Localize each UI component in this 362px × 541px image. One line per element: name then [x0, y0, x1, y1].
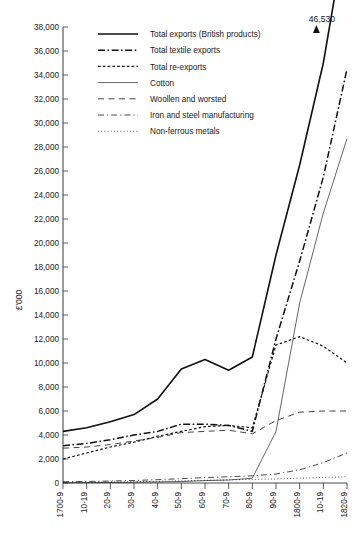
y-axis-title: £'000 — [14, 289, 24, 310]
legend-label: Total exports (British products) — [150, 30, 261, 39]
legend-item: Total exports (British products) — [98, 30, 261, 39]
x-tick-label: 10-19 — [316, 492, 325, 513]
y-tick-label: 28,000 — [34, 143, 59, 152]
y-tick-label: 20,000 — [34, 239, 59, 248]
x-tick-label: 40-9 — [151, 492, 160, 509]
y-tick-label: 16,000 — [34, 287, 59, 296]
legend-item: Woollen and worsted — [98, 95, 227, 104]
legend-label: Total re-exports — [150, 63, 206, 72]
x-tick-label: 90-9 — [269, 492, 278, 509]
legend-label: Woollen and worsted — [150, 95, 227, 104]
x-tick-label: 10-19 — [80, 492, 89, 513]
legend-label: Non-ferrous metals — [150, 127, 220, 136]
line-chart: 02,0004,0006,0008,00010,00012,00014,0001… — [0, 0, 362, 541]
x-tick-label: 1820-9 — [340, 492, 349, 518]
x-tick-label: 60-9 — [198, 492, 207, 509]
legend-item: Iron and steel manufacturing — [98, 111, 254, 120]
y-tick-label: 22,000 — [34, 215, 59, 224]
y-tick-label: 30,000 — [34, 119, 59, 128]
y-tick-label: 18,000 — [34, 263, 59, 272]
x-tick-label: 1700-9 — [56, 492, 65, 518]
x-tick-label: 1800-9 — [293, 492, 302, 518]
figure-container: 02,0004,0006,0008,00010,00012,00014,0001… — [0, 0, 362, 541]
x-tick-label: 20-9 — [103, 492, 112, 509]
x-tick-label: 30-9 — [127, 492, 136, 509]
legend-label: Cotton — [150, 79, 175, 88]
series-line — [63, 453, 347, 482]
y-tick-label: 6,000 — [39, 407, 60, 416]
legend-item: Total textile exports — [98, 46, 220, 55]
y-tick-label: 34,000 — [34, 71, 59, 80]
y-tick-label: 12,000 — [34, 335, 59, 344]
y-tick-label: 10,000 — [34, 359, 59, 368]
y-tick-label: 26,000 — [34, 167, 59, 176]
series-line — [63, 411, 347, 448]
y-tick-label: 2,000 — [39, 455, 60, 464]
x-tick-label: 50-9 — [174, 492, 183, 509]
y-tick-label: 14,000 — [34, 311, 59, 320]
y-tick-label: 4,000 — [39, 431, 60, 440]
y-tick-marks — [63, 27, 68, 483]
y-tick-label: 0 — [54, 479, 59, 488]
y-tick-label: 36,000 — [34, 47, 59, 56]
x-tick-labels: 1700-910-1920-930-940-950-960-970-980-99… — [56, 492, 349, 518]
peak-value-label: 46,530 — [309, 14, 336, 24]
y-tick-label: 32,000 — [34, 95, 59, 104]
legend-label: Iron and steel manufacturing — [150, 111, 254, 120]
y-tick-label: 24,000 — [34, 191, 59, 200]
legend-item: Non-ferrous metals — [98, 127, 220, 136]
peak-annotation-group: 46,530 — [309, 14, 336, 33]
y-tick-label: 8,000 — [39, 383, 60, 392]
legend-label: Total textile exports — [150, 46, 220, 55]
legend: Total exports (British products)Total te… — [98, 30, 261, 136]
legend-item: Cotton — [98, 79, 175, 88]
arrow-icon — [313, 25, 320, 33]
legend-item: Total re-exports — [98, 63, 206, 72]
y-tick-label: 38,000 — [34, 23, 59, 32]
series-line — [63, 139, 347, 483]
x-tick-label: 80-9 — [245, 492, 254, 509]
y-tick-labels: 02,0004,0006,0008,00010,00012,00014,0001… — [34, 23, 59, 488]
series-group — [63, 0, 347, 483]
series-line — [63, 69, 347, 446]
x-tick-marks — [63, 483, 347, 489]
x-tick-label: 70-9 — [222, 492, 231, 509]
